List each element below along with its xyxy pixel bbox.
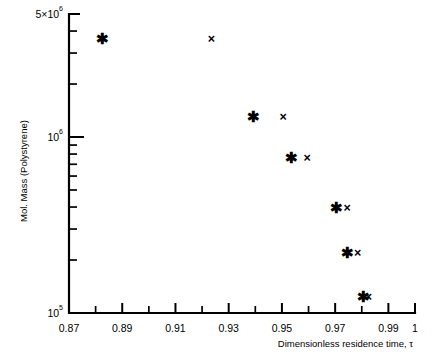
axis-frame xyxy=(69,14,415,313)
y-axis-title: Mol. Mass (Polystyrene) xyxy=(18,120,29,222)
data-point-star: ✱ xyxy=(285,149,298,166)
y-tick-label: 5×106 xyxy=(35,5,63,21)
plot-canvas: 1051065×106 0.870.890.910.930.950.970.99… xyxy=(0,0,433,357)
data-point-x: × xyxy=(343,201,350,215)
data-point-star: ✱ xyxy=(247,108,260,125)
y-axis-tick-labels: 1051065×106 xyxy=(35,5,63,320)
data-point-layer: ✱✱✱✱✱✱×××××× xyxy=(96,30,372,306)
y-axis-ticks xyxy=(69,14,84,313)
data-point-x: × xyxy=(304,151,311,165)
data-point-x: × xyxy=(365,290,372,304)
data-point-x: × xyxy=(280,110,287,124)
data-point-star: ✱ xyxy=(96,30,109,47)
x-tick-label: 0.87 xyxy=(59,322,80,334)
x-tick-label: 0.93 xyxy=(218,322,239,334)
x-tick-label: 0.95 xyxy=(272,322,293,334)
data-point-x: × xyxy=(208,32,215,46)
x-axis-tick-labels: 0.870.890.910.930.950.970.991 xyxy=(59,322,418,334)
x-tick-label: 0.99 xyxy=(378,322,399,334)
y-tick-label: 106 xyxy=(47,128,63,144)
x-tick-label: 0.97 xyxy=(325,322,346,334)
axis-spines xyxy=(69,14,415,313)
data-point-star: ✱ xyxy=(341,244,354,261)
x-tick-label: 0.91 xyxy=(165,322,186,334)
data-point-star: ✱ xyxy=(330,199,343,216)
x-tick-label: 1 xyxy=(412,322,418,334)
scatter-plot-figure: 1051065×106 0.870.890.910.930.950.970.99… xyxy=(0,0,433,357)
x-axis-title: Dimensionless residence time, τ xyxy=(278,338,413,349)
x-tick-label: 0.89 xyxy=(112,322,133,334)
data-point-x: × xyxy=(354,246,361,260)
y-tick-label: 105 xyxy=(47,304,63,320)
